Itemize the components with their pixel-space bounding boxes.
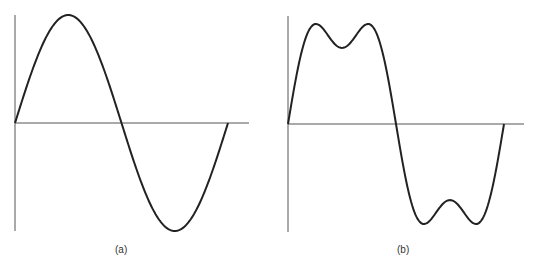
panel-label-a: (a) xyxy=(115,244,127,255)
panel-label-b: (b) xyxy=(397,244,409,255)
panel-b xyxy=(288,16,524,232)
panel-a xyxy=(15,15,249,231)
figure-canvas xyxy=(0,0,536,266)
